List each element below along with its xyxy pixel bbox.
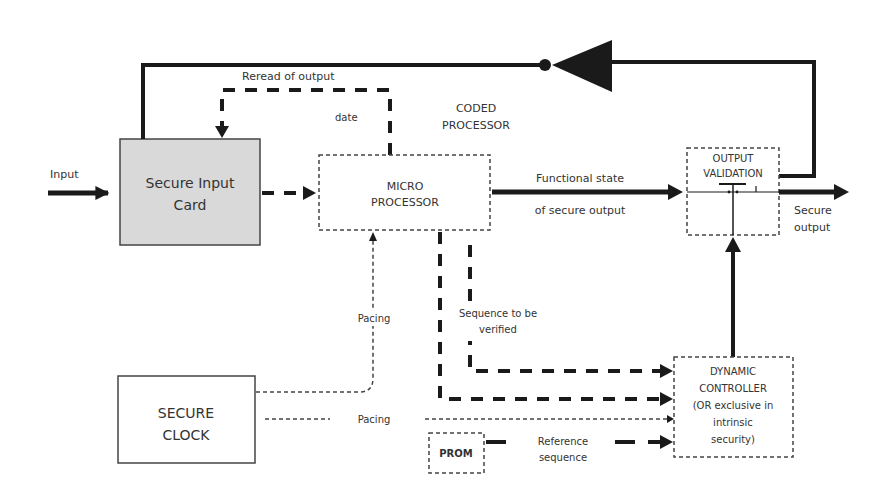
date-label: date [335, 112, 358, 123]
coded-processor-line1: CODED [456, 102, 496, 115]
buffer-triangle-icon [552, 40, 612, 92]
reread-label: Reread of output [242, 70, 335, 83]
secure-output-label-2: output [794, 221, 831, 234]
dynamic-controller-line1: DYNAMIC [710, 366, 756, 377]
functional-state-label-1: Functional state [536, 172, 624, 185]
secure-clock-box: SECURE CLOCK [118, 376, 255, 463]
card-to-processor-arrow [262, 186, 316, 200]
sequence-label-2: verified [479, 324, 517, 335]
pacing-vertical-label: Pacing [358, 313, 391, 324]
prom-box: PROM [429, 433, 484, 473]
functional-state-arrow [492, 184, 683, 200]
dynamic-controller-line4: intrinsic [713, 417, 753, 428]
output-validation-box: OUTPUT VALIDATION [687, 148, 779, 235]
secure-output-arrow [779, 184, 849, 200]
micro-processor-line2: PROCESSOR [371, 196, 439, 209]
controller-to-validation-arrow [725, 237, 741, 357]
pacing-horizontal-label: Pacing [358, 414, 391, 425]
dynamic-controller-line2: CONTROLLER [699, 383, 767, 394]
micro-processor-box: MICRO PROCESSOR [319, 155, 490, 230]
secure-clock-line2: CLOCK [162, 427, 210, 443]
output-validation-line2: VALIDATION [703, 168, 763, 179]
reference-label-1: Reference [538, 436, 588, 447]
reference-label-2: sequence [539, 452, 587, 463]
prom-label: PROM [439, 448, 473, 459]
secure-input-card-line2: Card [174, 197, 207, 213]
secure-input-card: Secure Input Card [120, 139, 260, 245]
coded-processor-line2: PROCESSOR [442, 119, 510, 132]
dynamic-controller-line5: security) [711, 434, 755, 445]
secure-input-card-line1: Secure Input [146, 175, 235, 191]
micro-processor-line1: MICRO [387, 180, 424, 193]
secure-output-label-1: Secure [794, 204, 832, 217]
functional-state-label-2: of secure output [535, 204, 626, 217]
sequence-label-1: Sequence to be [459, 308, 537, 319]
secure-clock-line1: SECURE [158, 405, 214, 421]
pacing-to-controller-line [265, 415, 674, 423]
dynamic-controller-box: DYNAMIC CONTROLLER (OR exclusive in intr… [674, 357, 793, 457]
output-validation-line1: OUTPUT [713, 153, 755, 164]
dynamic-controller-line3: (OR exclusive in [693, 400, 774, 411]
input-label: Input [50, 168, 79, 181]
coded-processor-diagram: Input Secure Input Card Reread of output… [0, 0, 888, 500]
